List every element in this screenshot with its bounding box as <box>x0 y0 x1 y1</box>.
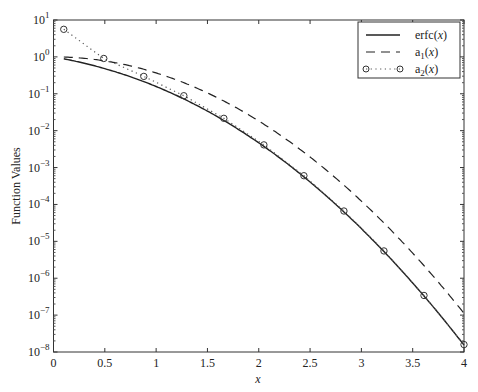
data-point-marker <box>101 55 107 61</box>
y-axis-title: Function Values <box>9 147 23 225</box>
x-tick-label: 3 <box>358 356 364 370</box>
y-tick-label: 10−6 <box>28 268 50 285</box>
chart: 00.511.522.533.5410110010−110−210−310−41… <box>0 0 478 392</box>
legend-label-3: a2(x) <box>415 62 438 78</box>
y-tick-label: 101 <box>33 10 50 27</box>
x-tick-label: 3.5 <box>405 356 420 370</box>
y-tick-label: 10−7 <box>28 305 50 322</box>
x-axis-title: x <box>254 372 261 386</box>
y-tick-label: 10−5 <box>28 231 50 248</box>
y-tick-label: 10−2 <box>28 121 50 138</box>
x-tick-label: 1.5 <box>200 356 215 370</box>
y-tick-label: 100 <box>33 47 50 64</box>
y-tick-label: 10−3 <box>28 158 50 175</box>
x-tick-label: 4 <box>461 356 467 370</box>
x-tick-label: 0 <box>51 356 57 370</box>
x-tick-label: 2 <box>256 356 262 370</box>
series-a1x-line <box>64 57 464 313</box>
data-point-marker <box>61 26 67 32</box>
y-tick-label: 10−8 <box>28 342 50 359</box>
data-point-marker <box>181 93 187 99</box>
y-tick-label: 10−4 <box>28 194 50 211</box>
legend: erfc(x)a1(x)a2(x) <box>358 22 460 78</box>
legend-label-1: erfc(x) <box>415 28 447 42</box>
x-tick-label: 1 <box>153 356 159 370</box>
series-erfcx-line <box>64 59 464 345</box>
x-tick-label: 2.5 <box>303 356 318 370</box>
legend-label-2: a1(x) <box>415 45 438 61</box>
data-point-marker <box>141 73 147 79</box>
x-tick-label: 0.5 <box>97 356 112 370</box>
y-tick-label: 10−1 <box>28 84 50 101</box>
